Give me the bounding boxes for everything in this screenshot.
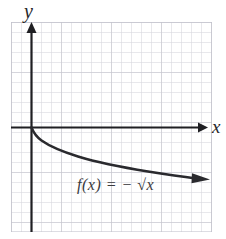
graph-figure bbox=[0, 0, 226, 239]
function-equation-label: f(x) = − √x bbox=[77, 176, 154, 194]
x-axis-label: x bbox=[212, 117, 220, 136]
y-axis-label: y bbox=[24, 1, 33, 21]
